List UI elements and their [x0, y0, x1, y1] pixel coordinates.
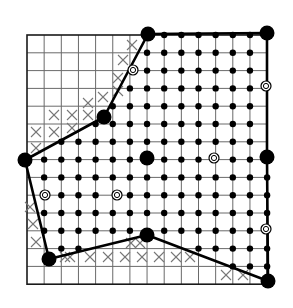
- lattice-dot: [92, 192, 98, 198]
- lattice-dot: [230, 103, 236, 109]
- lattice-dot: [247, 156, 253, 162]
- lattice-dot: [161, 210, 167, 216]
- lattice-dot: [110, 210, 116, 216]
- lattice-dot: [178, 50, 184, 56]
- lattice-dot: [127, 228, 133, 234]
- lattice-dot: [212, 139, 218, 145]
- lattice-dot: [230, 245, 236, 251]
- lattice-dot: [75, 192, 81, 198]
- lattice-dot: [144, 85, 150, 91]
- lattice-dot: [127, 192, 133, 198]
- lattice-dot: [58, 174, 64, 180]
- interior-lattice-dots: [41, 32, 270, 270]
- lattice-dot: [178, 156, 184, 162]
- lattice-dot: [110, 228, 116, 234]
- lattice-dot: [178, 121, 184, 127]
- lattice-dot: [247, 245, 253, 251]
- lattice-dot: [230, 67, 236, 73]
- lattice-dot: [161, 50, 167, 56]
- lattice-dot: [212, 245, 218, 251]
- lattice-dot: [195, 139, 201, 145]
- lattice-dot: [212, 50, 218, 56]
- lattice-dot: [58, 192, 64, 198]
- lattice-dot: [144, 210, 150, 216]
- lattice-dot: [127, 156, 133, 162]
- vertex-dot: [260, 150, 275, 165]
- lattice-dot: [178, 210, 184, 216]
- lattice-dot: [161, 67, 167, 73]
- lattice-dot: [195, 103, 201, 109]
- lattice-dot: [92, 210, 98, 216]
- lattice-dot: [195, 67, 201, 73]
- vertex-dot: [141, 27, 156, 42]
- lattice-dot: [75, 139, 81, 145]
- lattice-dot: [230, 156, 236, 162]
- lattice-dot: [58, 245, 64, 251]
- lattice-dot: [247, 263, 253, 269]
- vertex-dot: [140, 228, 155, 243]
- lattice-dot: [178, 103, 184, 109]
- vertex-dot: [261, 274, 276, 289]
- lattice-dot: [212, 85, 218, 91]
- vertex-dot: [260, 26, 275, 41]
- ringed-point-icon: [112, 190, 122, 200]
- lattice-dot: [230, 174, 236, 180]
- lattice-dot: [110, 121, 116, 127]
- lattice-dot: [144, 121, 150, 127]
- lattice-dot: [161, 174, 167, 180]
- ringed-point-icon: [261, 81, 271, 91]
- lattice-dot: [41, 156, 47, 162]
- lattice-dot: [161, 139, 167, 145]
- lattice-dot: [247, 228, 253, 234]
- lattice-dot: [230, 228, 236, 234]
- ringed-point-icon: [209, 153, 219, 163]
- ringed-point-icon: [261, 224, 271, 234]
- lattice-dot: [161, 156, 167, 162]
- lattice-dot: [110, 139, 116, 145]
- lattice-dot: [230, 192, 236, 198]
- lattice-dot: [212, 103, 218, 109]
- lattice-dot: [247, 174, 253, 180]
- lattice-dot: [110, 156, 116, 162]
- lattice-dot: [58, 210, 64, 216]
- lattice-dot: [92, 139, 98, 145]
- lattice-dot: [195, 156, 201, 162]
- lattice-dot: [247, 85, 253, 91]
- lattice-dot: [230, 85, 236, 91]
- lattice-dot: [41, 210, 47, 216]
- ringed-point-icon: [128, 65, 138, 75]
- lattice-dot: [178, 139, 184, 145]
- lattice-dot: [144, 103, 150, 109]
- ringed-point-icon: [40, 190, 50, 200]
- lattice-dot: [75, 228, 81, 234]
- lattice-dot: [195, 121, 201, 127]
- lattice-dot: [41, 174, 47, 180]
- lattice-dot: [195, 85, 201, 91]
- lattice-dot: [230, 139, 236, 145]
- lattice-dot: [247, 210, 253, 216]
- lattice-dot: [144, 50, 150, 56]
- lattice-diagram: [0, 0, 293, 308]
- lattice-dot: [144, 67, 150, 73]
- lattice-dot: [178, 85, 184, 91]
- lattice-dot: [195, 245, 201, 251]
- lattice-dot: [247, 139, 253, 145]
- lattice-dot: [127, 174, 133, 180]
- lattice-dot: [92, 174, 98, 180]
- lattice-dot: [127, 103, 133, 109]
- lattice-dot: [212, 67, 218, 73]
- lattice-dot: [161, 85, 167, 91]
- lattice-dot: [230, 210, 236, 216]
- vertex-dot: [18, 153, 33, 168]
- lattice-dot: [92, 228, 98, 234]
- lattice-dot: [161, 228, 167, 234]
- lattice-dot: [195, 174, 201, 180]
- lattice-dot: [110, 174, 116, 180]
- vertex-dot: [97, 110, 112, 125]
- lattice-dot: [195, 192, 201, 198]
- lattice-dot: [247, 192, 253, 198]
- vertex-dot: [42, 252, 57, 267]
- lattice-dot: [75, 210, 81, 216]
- lattice-dot: [247, 121, 253, 127]
- lattice-dot: [212, 174, 218, 180]
